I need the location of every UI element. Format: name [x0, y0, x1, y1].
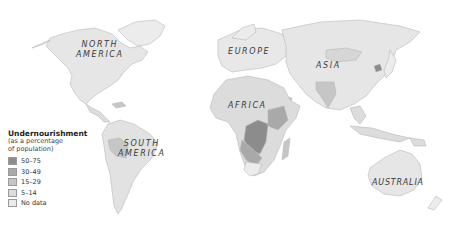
- label-north-america: NORTH AMERICA: [76, 40, 124, 60]
- caribbean: [112, 102, 126, 108]
- greenland: [118, 20, 165, 46]
- south-america-line2: AMERICA: [118, 149, 166, 159]
- legend-item: 5–14: [8, 188, 118, 198]
- legend-swatch: [8, 168, 17, 176]
- new-zealand: [428, 196, 442, 210]
- legend-subtitle-line2: of population): [8, 146, 118, 154]
- legend-swatch: [8, 157, 17, 165]
- australia: [368, 150, 422, 196]
- legend-label: 30–49: [21, 168, 41, 176]
- label-asia: ASIA: [316, 61, 341, 71]
- central-america: [86, 104, 110, 122]
- label-australia: AUSTRALIA: [372, 178, 424, 188]
- map-legend: Undernourishment (as a percentage of pop…: [8, 129, 118, 209]
- papua: [410, 138, 426, 146]
- legend-item: No data: [8, 198, 118, 208]
- legend-label: 50–75: [21, 157, 41, 165]
- south-america-line1: SOUTH: [118, 139, 166, 149]
- legend-item: 30–49: [8, 167, 118, 177]
- legend-items: 50–75 30–49 15–29 5–14 No data: [8, 156, 118, 208]
- legend-item: 50–75: [8, 156, 118, 166]
- legend-item: 15–29: [8, 177, 118, 187]
- indonesia: [350, 126, 410, 142]
- madagascar: [282, 138, 290, 160]
- label-south-america: SOUTH AMERICA: [118, 139, 166, 159]
- legend-label: No data: [21, 199, 47, 207]
- north-america-line1: NORTH: [76, 40, 124, 50]
- legend-label: 15–29: [21, 178, 41, 186]
- legend-swatch: [8, 178, 17, 186]
- label-africa: AFRICA: [228, 101, 267, 111]
- southeast-asia: [350, 106, 366, 124]
- asia: [282, 20, 420, 110]
- label-europe: EUROPE: [228, 47, 270, 57]
- north-america-line2: AMERICA: [76, 50, 124, 60]
- legend-swatch: [8, 199, 17, 207]
- legend-swatch: [8, 189, 17, 197]
- legend-label: 5–14: [21, 189, 37, 197]
